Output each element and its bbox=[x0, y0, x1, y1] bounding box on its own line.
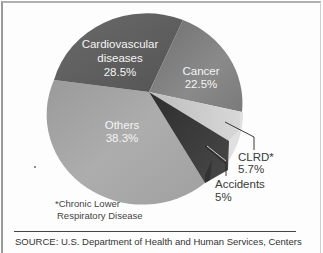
label-others-pct: 38.3% bbox=[106, 132, 139, 144]
label-cardio-line2: diseases bbox=[97, 52, 143, 64]
label-accidents: Accidents bbox=[215, 178, 265, 190]
divider bbox=[14, 231, 296, 232]
label-cancer: Cancer bbox=[182, 65, 219, 77]
label-cardio-line1: Cardiovascular bbox=[82, 38, 159, 50]
label-cancer-pct: 22.5% bbox=[185, 78, 218, 90]
label-others: Others bbox=[105, 119, 140, 131]
footnote-line2: Respiratory Disease bbox=[55, 210, 143, 222]
stray-dot bbox=[34, 166, 36, 168]
footnote-line1: *Chronic Lower bbox=[55, 198, 143, 210]
label-cardio-pct: 28.5% bbox=[104, 66, 137, 78]
footnote: *Chronic Lower Respiratory Disease bbox=[55, 198, 143, 222]
source-note: SOURCE: U.S. Department of Health and Hu… bbox=[15, 236, 302, 247]
label-clrd: CLRD* bbox=[238, 151, 274, 163]
label-clrd-pct: 5.7% bbox=[238, 163, 264, 175]
label-accidents-pct: 5% bbox=[215, 191, 232, 203]
